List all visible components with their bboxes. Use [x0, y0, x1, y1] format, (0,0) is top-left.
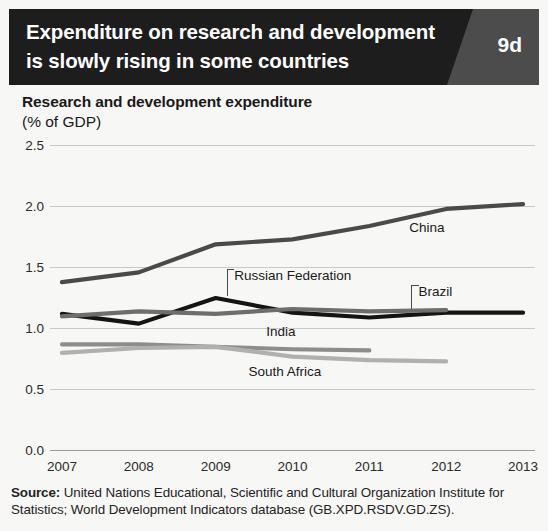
series-label-china: China: [409, 220, 445, 235]
figure-number-badge: 9d: [497, 33, 522, 57]
x-tick-label: 2013: [508, 459, 538, 474]
series-line-india: [62, 344, 369, 350]
y-tick-label: 0.0: [25, 443, 44, 458]
x-tick-label: 2009: [201, 459, 231, 474]
series-label-russian-federation: Russian Federation: [234, 268, 351, 283]
leader-line-russian-federation: [227, 270, 234, 296]
x-tick-label: 2007: [47, 459, 77, 474]
series-label-india: India: [266, 324, 296, 339]
figure-panel: Expenditure on research and development …: [0, 0, 548, 531]
leader-line-brazil: [412, 286, 419, 309]
series-label-brazil: Brazil: [419, 284, 453, 299]
x-tick-label: 2010: [277, 459, 307, 474]
series-line-russian-federation: [62, 298, 523, 324]
y-tick-label: 2.5: [25, 138, 44, 153]
series-line-china: [62, 204, 523, 282]
header-banner: Expenditure on research and development …: [9, 9, 539, 85]
x-tick-label: 2008: [124, 459, 154, 474]
series-line-south-africa: [62, 347, 446, 362]
page-title: Expenditure on research and development …: [26, 17, 466, 75]
source-note: Source: United Nations Educational, Scie…: [11, 485, 541, 518]
y-tick-label: 1.0: [25, 321, 44, 336]
source-text: United Nations Educational, Scientific a…: [11, 485, 504, 517]
title-line-1: Expenditure on research and development: [26, 20, 435, 43]
y-tick-label: 1.5: [25, 260, 44, 275]
title-line-2: is slowly rising in some countries: [26, 46, 466, 75]
x-tick-label: 2012: [431, 459, 461, 474]
chart-subtitle: Research and development expenditure: [22, 92, 312, 112]
source-label: Source:: [11, 485, 60, 500]
x-tick-label: 2011: [355, 459, 384, 474]
chart-subtitle-unit: (% of GDP): [22, 112, 101, 132]
series-line-brazil: [62, 309, 446, 316]
y-tick-label: 2.0: [25, 199, 44, 214]
y-tick-label: 0.5: [25, 382, 44, 397]
series-label-south-africa: South Africa: [248, 364, 321, 379]
